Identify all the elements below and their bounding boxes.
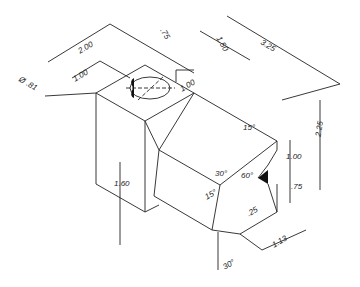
dim-notch-height: 1.00 (286, 153, 302, 161)
dim-notch-lower: .75 (291, 183, 302, 191)
angle-60: 60° (241, 172, 253, 180)
drawing-lines (0, 0, 360, 287)
dim-block-height: 1.60 (114, 180, 130, 188)
isometric-drawing: 2.00 1.00 Ø .81 .75 1.50 3.25 1.00 2.25 … (0, 0, 360, 287)
angle-15-top: 15° (243, 124, 255, 132)
angle-30-mid: 30° (215, 170, 227, 178)
